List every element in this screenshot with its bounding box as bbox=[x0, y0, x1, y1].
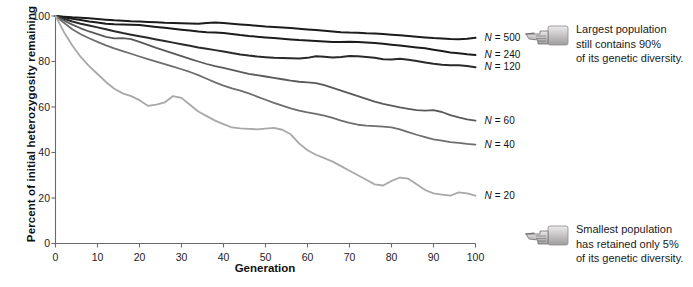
series-label-500: N = 500 bbox=[485, 32, 521, 43]
series-label-40: N = 40 bbox=[485, 139, 515, 150]
genetic-drift-line-chart: Percent of initial heterozygosity remain… bbox=[0, 0, 693, 287]
x-axis-tick-label: 0 bbox=[36, 251, 76, 263]
x-axis-tick-label: 80 bbox=[372, 251, 412, 263]
annotation-largest-population: Largest population still contains 90% of… bbox=[524, 22, 683, 66]
annotation-smallest-population: Smallest population has retained only 5%… bbox=[524, 222, 683, 266]
pointing-hand-icon bbox=[524, 223, 570, 249]
pointing-hand-icon bbox=[524, 23, 570, 49]
x-axis-tick-label: 100 bbox=[456, 251, 496, 263]
annotation-smallest-population-text: Smallest population has retained only 5%… bbox=[576, 222, 683, 266]
annotation-largest-population-text: Largest population still contains 90% of… bbox=[576, 22, 683, 66]
series-label-60: N = 60 bbox=[485, 115, 515, 126]
x-axis-tick-label: 70 bbox=[330, 251, 370, 263]
series-label-20: N = 20 bbox=[485, 190, 515, 201]
x-axis-tick-label: 50 bbox=[246, 251, 286, 263]
x-axis-tick-label: 40 bbox=[204, 251, 244, 263]
x-axis-tick-label: 30 bbox=[162, 251, 202, 263]
x-axis-tick-label: 60 bbox=[288, 251, 328, 263]
x-axis-tick-label: 10 bbox=[78, 251, 118, 263]
series-label-120: N = 120 bbox=[485, 61, 521, 72]
x-axis-tick-label: 90 bbox=[414, 251, 454, 263]
series-label-240: N = 240 bbox=[485, 49, 521, 60]
x-axis-tick-label: 20 bbox=[120, 251, 160, 263]
